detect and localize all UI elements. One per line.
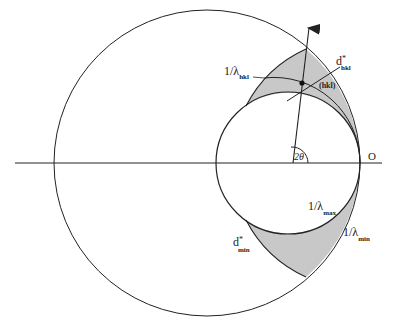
lambda-max-label: 1/λmax [308, 199, 336, 217]
hkl-point-label: (hkl) [319, 81, 336, 90]
two-theta-label: 2θ [294, 151, 304, 162]
lambda-min-label: 1/λmin [343, 225, 370, 243]
lambda-hkl-leader [253, 77, 264, 78]
d-hkl-label: d*hkl [336, 54, 351, 72]
origin-label: O [368, 150, 376, 162]
hkl-point [299, 80, 304, 85]
d-min-label: d*min [233, 235, 250, 254]
lambda-hkl-label: 1/λhkl [224, 64, 249, 81]
ewald-diagram: 1/λhkl d*hkl (hkl) 2θ O 1/λmax 1/λmin d*… [0, 0, 394, 325]
shaded-region-bottom [246, 163, 360, 277]
